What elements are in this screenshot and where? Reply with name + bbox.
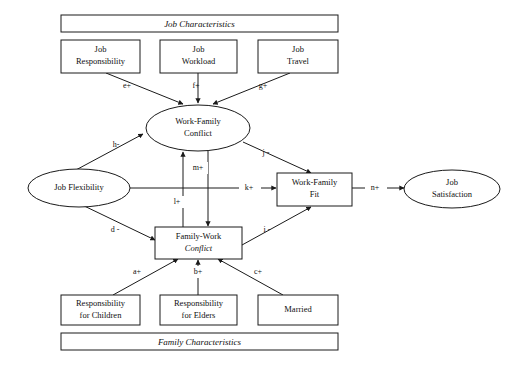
node-work-family-fit[interactable]: Work-Family Fit — [277, 173, 352, 206]
edge-g-line — [213, 73, 290, 104]
node-work-family-fit-line1: Work-Family — [292, 177, 338, 187]
node-work-family-fit-line2: Fit — [310, 189, 320, 199]
banner-family-characteristics-label: Family Characteristics — [157, 337, 242, 347]
edge-h: h- — [74, 134, 143, 171]
node-job-workload-line2: Workload — [182, 56, 216, 66]
edge-j-label: j - — [262, 148, 270, 157]
node-job-responsibility-line1: Job — [95, 44, 107, 54]
node-family-work-conflict[interactable]: Family-Work Conflict — [155, 227, 242, 259]
node-work-family-conflict-line1: Work-Family — [175, 116, 221, 126]
edge-n: n+ — [352, 181, 404, 194]
edge-j: j - — [243, 142, 311, 173]
edge-a-line — [113, 259, 178, 295]
edge-i-line — [242, 207, 311, 245]
edge-k-label: k+ — [245, 183, 254, 192]
edge-h-label: h- — [113, 140, 120, 149]
edge-c: c+ — [218, 259, 283, 295]
node-family-work-conflict-line1: Family-Work — [176, 231, 222, 241]
edge-a-label: a+ — [133, 267, 142, 276]
node-responsibility-for-elders-line2: for Elders — [182, 310, 216, 320]
edge-m-label: m+ — [193, 163, 204, 172]
edge-a: a+ — [113, 259, 178, 295]
edge-g-label: g+ — [259, 81, 268, 90]
edge-f-label: f+ — [192, 81, 200, 90]
node-work-family-conflict-line2: Conflict — [184, 128, 212, 138]
node-married[interactable]: Married — [258, 295, 338, 325]
node-married-line1: Married — [284, 304, 312, 314]
node-job-workload[interactable]: Job Workload — [160, 40, 237, 73]
node-job-travel[interactable]: Job Travel — [258, 40, 338, 73]
edge-e-line — [106, 73, 183, 104]
edge-h-line — [74, 134, 143, 171]
node-responsibility-for-children-line2: for Children — [80, 310, 123, 320]
edge-i-label: i - — [264, 225, 271, 234]
node-responsibility-for-children[interactable]: Responsibility for Children — [61, 295, 140, 325]
node-job-flexibility-line1: Job Flexibility — [54, 182, 104, 192]
edge-b: b+ — [190, 260, 208, 295]
path-model-diagram: Job Characteristics Family Characteristi… — [0, 0, 519, 372]
edge-l: l+ — [170, 152, 186, 227]
banner-job-characteristics: Job Characteristics — [61, 15, 338, 32]
edge-n-label: n+ — [371, 183, 380, 192]
edge-c-line — [218, 259, 283, 295]
node-work-family-conflict[interactable]: Work-Family Conflict — [146, 105, 250, 151]
edge-g: g+ — [213, 73, 290, 104]
node-family-work-conflict-line2: Conflict — [185, 243, 213, 253]
node-job-responsibility-line2: Responsibility — [76, 56, 126, 66]
edge-f: f+ — [192, 73, 200, 103]
edge-l-label: l+ — [174, 197, 181, 206]
edge-e: e+ — [106, 73, 183, 104]
node-job-satisfaction[interactable]: Job Satisfaction — [404, 170, 500, 208]
node-job-responsibility[interactable]: Job Responsibility — [61, 40, 140, 73]
edge-d: d - — [78, 203, 155, 240]
banner-job-characteristics-label: Job Characteristics — [164, 19, 235, 29]
edge-b-label: b+ — [194, 267, 203, 276]
edge-c-label: c+ — [254, 267, 263, 276]
node-responsibility-for-elders-line1: Responsibility — [174, 298, 224, 308]
edge-d-label: d - — [111, 225, 120, 234]
node-job-flexibility[interactable]: Job Flexibility — [28, 169, 130, 207]
diagram-canvas: Job Characteristics Family Characteristi… — [0, 0, 519, 372]
edge-j-line — [243, 142, 311, 173]
edge-e-label: e+ — [123, 81, 132, 90]
edge-d-line — [78, 203, 155, 240]
node-responsibility-for-elders[interactable]: Responsibility for Elders — [160, 295, 237, 325]
edge-k: k+ — [130, 181, 276, 194]
node-job-satisfaction-line2: Satisfaction — [432, 189, 473, 199]
node-responsibility-for-children-line1: Responsibility — [76, 298, 126, 308]
node-job-travel-line2: Travel — [287, 56, 310, 66]
node-job-satisfaction-line1: Job — [446, 177, 458, 187]
node-job-workload-line1: Job — [193, 44, 205, 54]
edge-i: i - — [242, 207, 311, 245]
node-job-travel-line1: Job — [292, 44, 304, 54]
banner-family-characteristics: Family Characteristics — [61, 333, 338, 350]
